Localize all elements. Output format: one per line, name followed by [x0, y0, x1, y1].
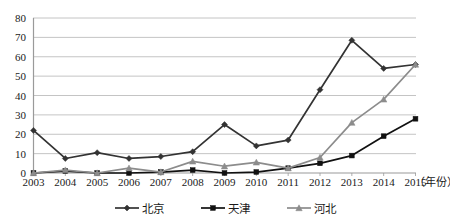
plot-area	[33, 18, 416, 173]
legend-entry-天津[interactable]: 天津	[200, 200, 250, 216]
x-axis-tick-label: 2012	[309, 176, 331, 189]
x-axis-tick-label: 2010	[245, 176, 267, 189]
x-axis-tick-label: 2004	[54, 176, 76, 189]
series-北京	[31, 37, 419, 161]
legend-entry-河北[interactable]: 河北	[286, 200, 336, 216]
legend-marker-icon	[286, 202, 312, 214]
x-axis-tick-label: 2005	[86, 176, 108, 189]
x-axis-tick-label: 2014	[373, 176, 395, 189]
data-point-marker	[413, 116, 418, 121]
data-point-marker	[158, 154, 164, 160]
chart-legend: 北京天津河北	[33, 198, 416, 218]
data-series-layer	[33, 18, 416, 173]
y-axis-tick-label: 30	[15, 109, 26, 120]
x-axis-tick-label: 2008	[182, 176, 204, 189]
data-point-marker	[222, 171, 227, 176]
data-point-marker	[349, 153, 354, 158]
x-axis-tick-label: 2006	[118, 176, 140, 189]
y-axis-tick-label: 50	[15, 71, 26, 82]
legend-label: 天津	[228, 200, 250, 216]
legend-marker-icon	[114, 202, 140, 214]
legend-label: 北京	[142, 200, 164, 216]
data-point-marker	[190, 168, 195, 173]
series-河北	[30, 61, 418, 175]
x-axis-tick-label: 2007	[150, 176, 172, 189]
data-point-marker	[126, 155, 132, 161]
data-point-marker	[127, 171, 132, 176]
y-axis-tick-labels: 01020304050607080	[0, 18, 30, 173]
legend-entry-北京[interactable]: 北京	[114, 200, 164, 216]
y-axis-tick-label: 60	[15, 51, 26, 62]
data-point-marker	[381, 134, 386, 139]
series-line	[34, 65, 416, 174]
x-axis-unit-label: （年份）	[414, 176, 450, 189]
x-axis-tick-label: 2013	[341, 176, 363, 189]
data-point-marker	[124, 205, 130, 211]
x-axis-tick-labels: 2003200420052006200720082009201020112012…	[33, 176, 416, 192]
line-chart: 01020304050607080 2003200420052006200720…	[0, 0, 450, 222]
y-axis-tick-label: 20	[15, 129, 26, 140]
y-axis-tick-label: 80	[15, 13, 26, 24]
legend-marker-icon	[200, 202, 226, 214]
data-point-marker	[210, 206, 215, 211]
x-axis-tick-label: 2009	[214, 176, 236, 189]
y-axis-tick-label: 40	[15, 90, 26, 101]
x-axis-tick-label: 2011	[277, 176, 299, 189]
legend-label: 河北	[314, 200, 336, 216]
x-axis-tick-label: 2003	[23, 176, 45, 189]
series-line	[34, 40, 416, 158]
data-point-marker	[94, 150, 100, 156]
data-point-marker	[318, 161, 323, 166]
y-axis-tick-label: 10	[15, 148, 26, 159]
y-axis-tick-label: 70	[15, 32, 26, 43]
data-point-marker	[254, 170, 259, 175]
